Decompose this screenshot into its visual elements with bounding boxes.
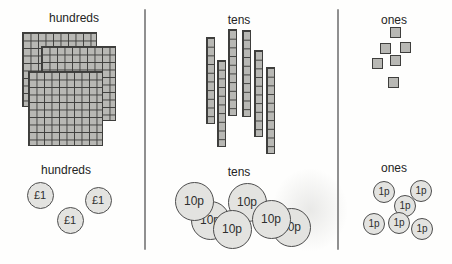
one-unit-block [380,43,391,54]
ten-rod-block [254,50,263,137]
one-pound-coin: £1 [27,182,54,209]
hundreds-blocks-label: hundreds [49,11,99,25]
tens-blocks-label: tens [228,13,251,27]
one-pound-coin: £1 [57,207,84,234]
place-value-diagram: hundreds tens ones hundreds tens ones £1… [0,0,452,264]
column-divider-2 [337,9,339,250]
one-penny-coin: 1p [388,212,410,234]
one-unit-block [400,42,411,53]
tens-coins-label: tens [228,165,251,179]
ten-rod-block [217,60,226,147]
one-penny-coin: 1p [363,213,385,235]
ten-pence-coin: 10p [175,182,214,221]
ten-rod-block [266,67,275,154]
ten-pence-coin: 10p [252,200,291,239]
ten-rod-block [242,30,251,117]
one-pound-coin: £1 [85,187,112,214]
one-unit-block [390,55,401,66]
one-penny-coin: 1p [411,218,433,240]
one-unit-block [372,58,383,69]
ten-rod-block [206,37,215,124]
one-unit-block [388,77,399,88]
one-unit-block [390,27,401,38]
ten-rod-block [228,29,237,116]
hundred-flat-block [28,71,103,146]
hundreds-coins-label: hundreds [41,163,91,177]
ten-pence-coin: 10p [213,210,252,249]
one-penny-coin: 1p [373,181,395,203]
column-divider-1 [144,9,146,250]
ones-blocks-label: ones [381,13,407,27]
ones-coins-label: ones [381,161,407,175]
